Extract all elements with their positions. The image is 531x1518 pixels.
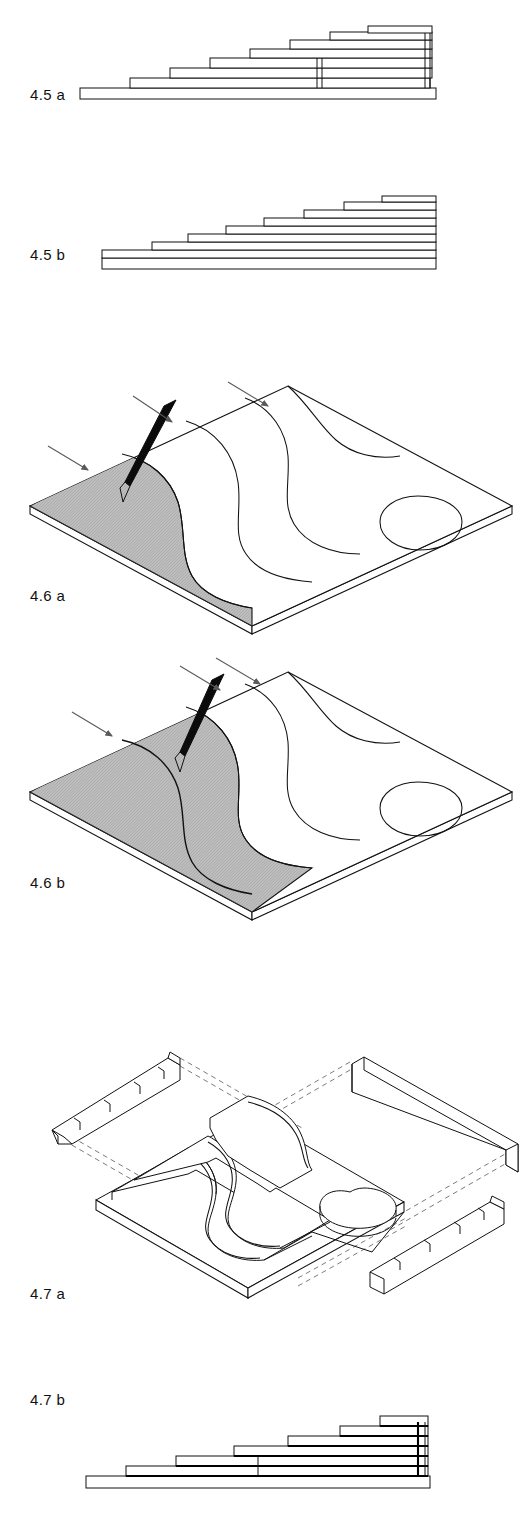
figure-sheet: 4.5 a <box>0 0 531 1518</box>
step-plate-2 <box>170 68 432 78</box>
stepped-section-offset-drawing <box>78 26 453 111</box>
layer-5 <box>226 226 436 234</box>
step-plate-7 <box>368 26 432 33</box>
terrain-stack-model <box>96 1096 404 1298</box>
figure-label-4-7-b: 4.7 b <box>30 1391 65 1408</box>
direction-arrow-top <box>228 382 268 406</box>
figure-4-7-a <box>12 1010 524 1310</box>
step-plate-3 <box>210 58 432 68</box>
step-plate-3 <box>234 1446 428 1456</box>
direction-arrow-top <box>216 658 260 684</box>
figure-4-6-b <box>20 664 520 919</box>
layer-8 <box>344 202 436 210</box>
step-plate-4 <box>250 49 432 58</box>
exploded-assembly-drawing <box>12 1010 524 1310</box>
figure-4-5-b <box>100 196 450 276</box>
layer-4 <box>188 234 436 242</box>
step-plate-4 <box>288 1436 428 1446</box>
step-plate-6 <box>380 1416 428 1426</box>
layer-2 <box>102 250 436 258</box>
layer-7 <box>304 210 436 218</box>
figure-4-7-b <box>84 1414 454 1500</box>
direction-arrow-left <box>48 446 88 470</box>
isometric-plate-a-drawing <box>20 378 520 633</box>
figure-label-4-5-b: 4.5 b <box>30 246 65 263</box>
step-plate-5 <box>340 1426 428 1436</box>
figure-label-4-5-a: 4.5 a <box>30 86 65 103</box>
step-plate-5 <box>290 40 432 49</box>
figure-4-6-a <box>20 378 520 633</box>
step-plate-1 <box>126 1466 428 1476</box>
isometric-plate-b-drawing <box>20 664 520 919</box>
stepped-section-stacked-drawing <box>100 196 450 276</box>
direction-arrow-middle <box>180 666 220 690</box>
waste-rail-upper-left <box>52 1052 180 1144</box>
figure-4-5-a <box>78 26 453 111</box>
layer-1-base <box>102 258 436 269</box>
base-plate <box>86 1476 430 1488</box>
step-plate-1 <box>130 78 430 88</box>
step-plate-2 <box>176 1456 428 1466</box>
layer-3 <box>152 242 436 250</box>
stepped-section-heavy-drawing <box>84 1414 454 1500</box>
waste-rail-upper-right <box>352 1057 518 1172</box>
layer-6 <box>264 218 436 226</box>
base-plate <box>80 88 436 99</box>
layer-9-top <box>382 196 436 202</box>
direction-arrow-left <box>72 712 112 736</box>
